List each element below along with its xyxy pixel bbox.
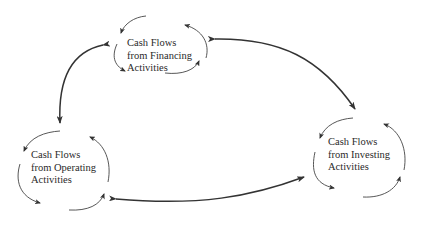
node-investing-line-1: Cash Flows — [328, 136, 390, 149]
node-financing-line-1: Cash Flows — [127, 37, 192, 50]
node-operating: Cash Flows from Operating Activities — [31, 149, 96, 187]
cycle-arc-icon — [69, 194, 104, 210]
cycle-arc-icon — [24, 131, 60, 151]
node-financing-line-2: from Financing — [127, 50, 192, 63]
node-investing-line-3: Activities — [328, 161, 390, 174]
cycle-arc-icon — [114, 44, 125, 71]
node-operating-line-1: Cash Flows — [31, 149, 96, 162]
cycle-arc-icon — [121, 16, 146, 33]
node-operating-line-2: from Operating — [31, 162, 96, 175]
cycle-arc-icon — [320, 118, 353, 138]
cycle-arc-icon — [363, 177, 400, 197]
connector-financing-investing — [215, 39, 355, 109]
node-financing-line-3: Activities — [127, 62, 192, 75]
connector-financing-operating — [60, 45, 103, 123]
node-operating-line-3: Activities — [31, 174, 96, 187]
node-financing: Cash Flows from Financing Activities — [127, 37, 192, 75]
connectors — [60, 39, 355, 201]
diagram-canvas — [0, 0, 423, 225]
node-investing: Cash Flows from Investing Activities — [328, 136, 390, 174]
node-investing-line-2: from Investing — [328, 149, 390, 162]
connector-operating-investing — [116, 177, 304, 201]
